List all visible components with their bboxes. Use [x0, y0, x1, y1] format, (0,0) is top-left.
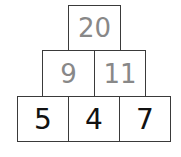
pyramid-bottom-cell-middle: 4: [68, 96, 120, 142]
cell-value: 9: [60, 59, 77, 89]
pyramid-middle-cell-right: 11: [94, 50, 146, 97]
pyramid-bottom-cell-right: 7: [119, 96, 171, 142]
cell-value: 7: [136, 103, 154, 136]
cell-value: 4: [85, 103, 103, 136]
cell-value: 20: [78, 13, 111, 43]
pyramid-middle-cell-left: 9: [42, 50, 95, 97]
cell-value: 11: [103, 59, 136, 89]
pyramid-top-cell: 20: [68, 5, 121, 51]
cell-value: 5: [34, 103, 52, 136]
pyramid-bottom-cell-left: 5: [17, 96, 69, 142]
